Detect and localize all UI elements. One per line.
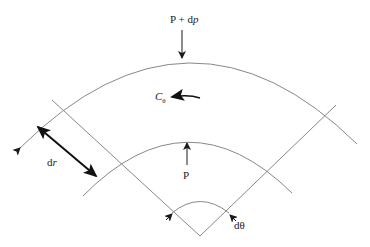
inner-pressure-label: P	[183, 169, 189, 181]
angle-arrow-left	[166, 214, 172, 220]
angle-arc	[172, 202, 229, 214]
moment-arrow	[172, 96, 200, 98]
angle-increment-label: dθ	[234, 219, 245, 231]
radial-increment-label: dr	[47, 156, 58, 168]
radial-increment-arrow	[38, 127, 96, 176]
moment-label: Cθ	[155, 90, 166, 105]
right-radial-line	[200, 105, 336, 236]
stress-element-diagram: P + dp P Cθ dr dθ	[0, 0, 370, 247]
left-radial-line	[52, 100, 200, 236]
outer-pressure-label: P + dp	[170, 13, 199, 25]
outer-arc	[20, 63, 357, 148]
